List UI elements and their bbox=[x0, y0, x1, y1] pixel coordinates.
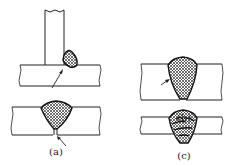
t-joint-figure bbox=[19, 10, 101, 88]
panel-label-a: (a) bbox=[49, 146, 63, 157]
butt-weld-a-figure bbox=[11, 101, 101, 146]
panel-label-c: (c) bbox=[177, 150, 190, 161]
weld-bead bbox=[168, 57, 197, 99]
root-gap-arrow bbox=[59, 138, 66, 146]
weld-defect-diagram bbox=[0, 0, 234, 167]
panel-label-b: (b) bbox=[177, 112, 191, 123]
butt-weld-b-figure bbox=[140, 57, 223, 100]
weld-bead bbox=[41, 101, 72, 129]
